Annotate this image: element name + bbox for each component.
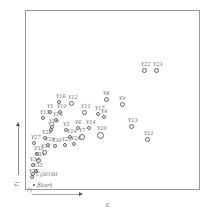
data-point (53, 144, 57, 148)
data-point (69, 101, 74, 106)
data-point-label: Y3 (48, 122, 54, 127)
data-point-label: Y18 (53, 112, 63, 117)
x-axis-arrow (32, 194, 80, 195)
data-point-label: Y13 (128, 118, 138, 123)
data-point (97, 132, 104, 139)
y-axis-corner-label: 7) (13, 181, 20, 187)
data-point (129, 124, 134, 129)
data-point (145, 137, 150, 142)
data-point-label: Y10 (57, 104, 67, 109)
start-label: Start (37, 182, 52, 187)
data-point (154, 68, 159, 73)
data-point (72, 142, 76, 146)
data-point-label: Y26 (71, 136, 81, 141)
data-point-label: Y9 (119, 96, 125, 101)
data-point-label: Y23 (153, 62, 163, 67)
data-point (87, 126, 91, 130)
data-point-label: Y28 (42, 130, 52, 135)
data-point (63, 143, 67, 147)
data-point-label: Y22 (141, 62, 151, 67)
data-point-label: Y30 (52, 138, 62, 143)
plot-frame (25, 10, 200, 190)
data-point-label: Y24 (67, 129, 77, 134)
data-point-label: Y6 (75, 120, 81, 125)
x-axis-corner-label: 7) (26, 186, 32, 193)
data-point-label: Y15 (40, 110, 50, 115)
data-point-label: Y14 (86, 120, 96, 125)
data-point (96, 112, 100, 116)
data-point-label: Y36 (29, 169, 39, 174)
data-point-label: Y7 (79, 128, 85, 133)
data-point (82, 110, 87, 115)
data-point (104, 97, 109, 102)
data-point-label: Y21 (144, 131, 154, 136)
data-point-label: Y20 (97, 126, 107, 131)
start-marker (33, 184, 35, 186)
data-point-label: Y8 (103, 91, 109, 96)
data-point-label: Y27 (31, 135, 41, 140)
data-point-label: Y11 (81, 104, 91, 109)
data-point-label: Y5 (63, 122, 69, 127)
data-point-label: CySO3H (36, 172, 58, 177)
data-point (41, 116, 45, 120)
data-point (30, 175, 34, 179)
x-axis-label: c (106, 201, 110, 209)
data-point-label: Y16 (56, 94, 66, 99)
data-point (142, 68, 147, 73)
data-point-label: Y12 (68, 95, 78, 100)
data-point (120, 102, 125, 107)
data-point-label: Y4 (101, 109, 107, 114)
y-axis-arrow (18, 125, 19, 175)
data-point (102, 115, 106, 119)
